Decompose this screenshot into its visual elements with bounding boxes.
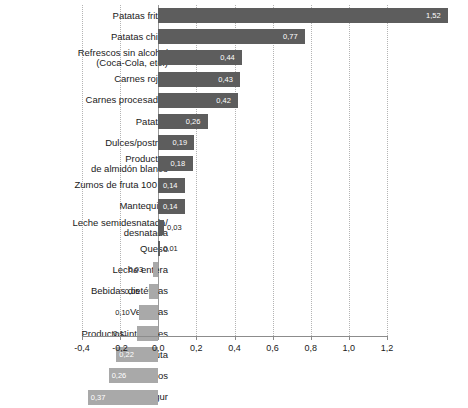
bar-value-label: 0,18	[171, 156, 186, 171]
bar-rows: Patatas fritas1,52Patatas chips0,77Refre…	[0, 0, 468, 336]
bar-row: Mantequilla0,14	[0, 196, 468, 217]
x-tick	[349, 336, 350, 340]
category-label: Dulces/postres	[8, 137, 168, 148]
x-tick-label: 1,2	[381, 343, 394, 353]
x-tick-label: 0,2	[190, 343, 203, 353]
category-label: Refrescos sin alcohol (Coca-Cola, etc.)	[8, 47, 168, 68]
bar-row: Patatas chips0,77	[0, 26, 468, 47]
bar-row: Zumos de fruta 100 %0,14	[0, 175, 468, 196]
category-label: Mantequilla	[8, 201, 168, 212]
bar-value-label: 0,05	[125, 284, 140, 299]
bar	[158, 241, 160, 256]
bar-value-label: 0,77	[283, 29, 298, 44]
category-label: Queso	[8, 243, 168, 254]
x-tick	[387, 336, 388, 340]
bar-row: Leche entera0,03	[0, 259, 468, 280]
x-tick	[311, 336, 312, 340]
x-tick	[158, 336, 159, 340]
category-label: Productos de almidón blanco	[8, 153, 168, 174]
bar-value-label: 0,37	[91, 390, 106, 405]
bar-row: Queso0,01	[0, 238, 468, 259]
category-label: Carnes procesadas	[8, 95, 168, 106]
bar-row: Yogur0,37	[0, 387, 468, 408]
bar-value-label: 0,03	[129, 262, 144, 277]
x-tick-label: 1,0	[343, 343, 356, 353]
x-tick	[82, 336, 83, 340]
bar	[158, 220, 164, 235]
bar	[149, 284, 159, 299]
bar	[139, 305, 158, 320]
bar-value-label: 0,43	[218, 72, 233, 87]
bar-value-label: 0,44	[220, 50, 235, 65]
bar-value-label: 0,14	[163, 199, 178, 214]
bar-value-label: 0,19	[172, 135, 187, 150]
category-label: Patatas fritas	[8, 10, 168, 21]
bar-row: Leche semidesnatada/ desnatada0,03	[0, 217, 468, 238]
bar-value-label: 0,26	[186, 114, 201, 129]
bar-value-label: 0,26	[112, 368, 127, 383]
x-tick	[120, 336, 121, 340]
bar-row: Carnes procesadas0,42	[0, 90, 468, 111]
bar-value-label: 0,10	[115, 305, 130, 320]
bar-row: Dulces/postres0,19	[0, 132, 468, 153]
category-label: Patatas	[8, 116, 168, 127]
category-label: Carnes rojas	[8, 74, 168, 85]
bar-row: Verduras0,10	[0, 302, 468, 323]
x-axis: -0,4-0,20,00,20,40,60,81,01,2	[0, 336, 468, 367]
x-tick-label: -0,2	[112, 343, 128, 353]
x-tick	[235, 336, 236, 340]
bar-value-label: 0,01	[163, 241, 178, 256]
bar-row: Refrescos sin alcohol (Coca-Cola, etc.)0…	[0, 47, 468, 68]
bar-value-label: 0,42	[216, 93, 231, 108]
plot-area: Patatas fritas1,52Patatas chips0,77Refre…	[0, 0, 468, 336]
x-tick-label: 0,6	[266, 343, 279, 353]
category-label: Bebidas dietéticas	[8, 286, 168, 297]
category-label: Leche semidesnatada/ desnatada	[8, 217, 168, 238]
bar	[153, 262, 159, 277]
x-tick	[196, 336, 197, 340]
x-tick	[273, 336, 274, 340]
bar-value-label: 0,03	[167, 220, 182, 235]
bar	[158, 8, 448, 23]
bar-value-label: 0,14	[163, 178, 178, 193]
bar-value-label: 1,52	[426, 8, 441, 23]
category-label: Patatas chips	[8, 31, 168, 42]
bar-row: Bebidas dietéticas0,05	[0, 281, 468, 302]
x-tick-label: 0,0	[152, 343, 165, 353]
bar-row: Frutos secos0,26	[0, 365, 468, 386]
x-tick-label: -0,4	[74, 343, 90, 353]
bar-row: Patatas fritas1,52	[0, 5, 468, 26]
bar-row: Productos de almidón blanco0,18	[0, 153, 468, 174]
category-label: Leche entera	[8, 265, 168, 276]
x-tick-label: 0,4	[228, 343, 241, 353]
bar-row: Carnes rojas0,43	[0, 69, 468, 90]
category-label: Zumos de fruta 100 %	[8, 180, 168, 191]
bar-row: Patatas0,26	[0, 111, 468, 132]
x-tick-label: 0,8	[304, 343, 317, 353]
